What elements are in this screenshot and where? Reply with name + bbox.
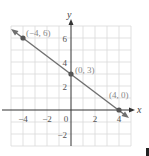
x-tick: 0 (64, 114, 69, 124)
graph: x y −4 −2 0 2 4 6 4 2 −2 (−4, 6) (0, 3) … (0, 0, 149, 156)
y-tick: 6 (63, 34, 68, 44)
x-tick: 4 (117, 114, 122, 124)
x-axis-arrow-icon (129, 108, 135, 113)
y-tick: 2 (63, 82, 68, 92)
x-tick: −4 (18, 114, 28, 124)
point-label: (−4, 6) (26, 28, 51, 38)
x-axis-label: x (136, 104, 142, 115)
point-0-3 (68, 71, 73, 76)
y-tick: −2 (57, 130, 67, 140)
point-4-0 (116, 107, 121, 112)
x-tick: −2 (42, 114, 52, 124)
x-tick: 2 (93, 114, 98, 124)
corner-marker (146, 148, 149, 156)
point-label: (4, 0) (109, 90, 129, 100)
y-tick: 4 (63, 58, 68, 68)
y-axis-label: y (66, 9, 72, 20)
point-neg4-6 (20, 35, 25, 40)
point-label: (0, 3) (75, 65, 95, 75)
